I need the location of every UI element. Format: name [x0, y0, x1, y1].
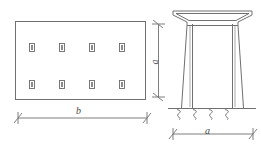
pile-marker	[60, 44, 65, 52]
pile-marker	[90, 81, 95, 89]
dimension-label-a-vertical: a	[150, 60, 160, 65]
elastic-support-marks	[177, 110, 228, 120]
spring-mark	[177, 110, 180, 120]
footing-outline	[16, 22, 146, 100]
pile-marker	[120, 81, 125, 89]
dimension-label-a-horizontal: a	[205, 126, 210, 136]
column-elevation	[152, 11, 257, 140]
cap-inner-line	[176, 14, 249, 21]
spring-mark	[193, 110, 196, 120]
rectangular-footing-plan	[14, 22, 151, 125]
width-dimension-b	[14, 112, 151, 124]
pile-marker	[120, 44, 125, 52]
dimension-label-b: b	[76, 106, 81, 116]
pile-marker	[30, 81, 35, 89]
spring-mark	[209, 110, 212, 120]
shaft-outer-right	[238, 26, 244, 109]
spring-mark	[225, 110, 228, 120]
pile-marker	[60, 81, 65, 89]
shaft-outer-left	[182, 26, 188, 109]
pile-marker-group	[30, 44, 125, 89]
engineering-figure: b a a	[0, 0, 261, 145]
width-dimension-a	[169, 128, 257, 140]
figure-canvas	[0, 0, 261, 145]
pile-marker	[30, 44, 35, 52]
pile-marker	[90, 44, 95, 52]
